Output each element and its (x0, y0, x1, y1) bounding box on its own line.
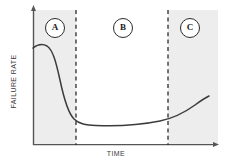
bathtub-curve-figure: A B C TIME FAILURE RATE (0, 0, 232, 166)
phase-badge-a: A (45, 18, 65, 38)
y-axis-arrow-icon (31, 5, 36, 11)
phase-badge-b: B (113, 18, 133, 38)
x-axis-label: TIME (0, 150, 232, 157)
y-axis-label: FAILURE RATE (10, 47, 17, 117)
phase-badge-c: C (180, 18, 200, 38)
